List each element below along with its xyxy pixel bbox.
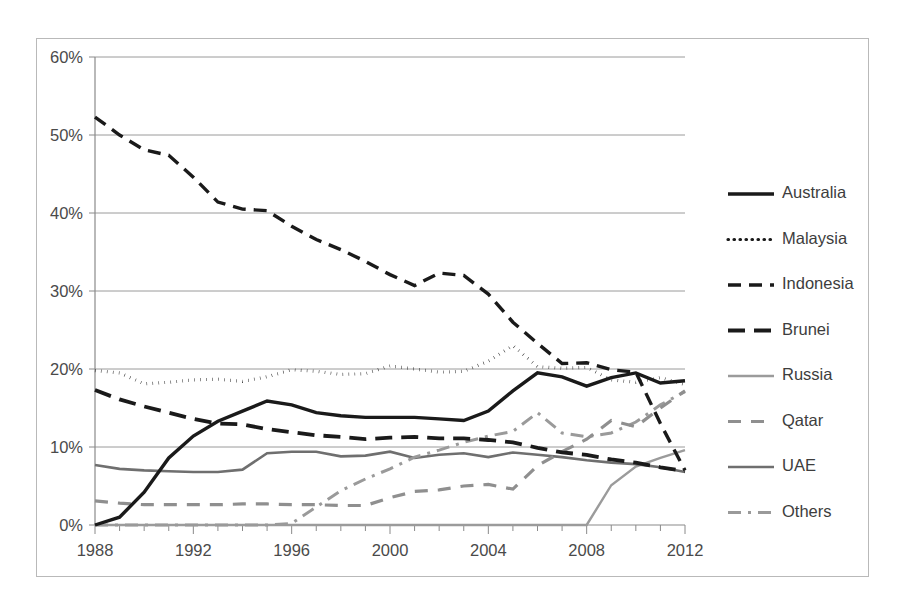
y-axis-group: [89, 57, 95, 525]
series-line-malaysia: [95, 346, 685, 385]
chart-plot: 0%10%20%30%40%50%60% 1988199219962000200…: [0, 0, 910, 606]
series-line-australia: [95, 373, 685, 525]
legend-label-others: Others: [782, 502, 832, 520]
y-tick-label: 20%: [50, 360, 83, 378]
series-line-qatar: [95, 391, 685, 506]
chart-container: 0%10%20%30%40%50%60% 1988199219962000200…: [0, 0, 910, 606]
y-tick-label: 50%: [50, 126, 83, 144]
x-tick-label: 1992: [175, 541, 212, 559]
y-tick-label: 0%: [59, 516, 83, 534]
legend-label-brunei: Brunei: [782, 320, 830, 338]
gridlines-group: [95, 57, 685, 447]
x-tick-label: 2008: [568, 541, 605, 559]
legend-label-indonesia: Indonesia: [782, 274, 854, 292]
series-group: [95, 117, 685, 525]
legend-label-russia: Russia: [782, 365, 833, 383]
legend-group: AustraliaMalaysiaIndonesiaBruneiRussiaQa…: [728, 183, 854, 520]
y-tick-label: 60%: [50, 48, 83, 66]
series-line-brunei: [95, 390, 685, 471]
x-tick-label: 1996: [273, 541, 310, 559]
legend-label-uae: UAE: [782, 456, 816, 474]
x-tick-label: 1988: [77, 541, 114, 559]
x-tick-label: 2000: [372, 541, 409, 559]
x-axis-group: [95, 525, 685, 534]
y-tick-label: 40%: [50, 204, 83, 222]
y-tick-labels-group: 0%10%20%30%40%50%60%: [50, 48, 83, 534]
y-tick-label: 10%: [50, 438, 83, 456]
x-tick-labels-group: 1988199219962000200420082012: [77, 541, 704, 559]
x-tick-label: 2004: [470, 541, 507, 559]
legend-label-qatar: Qatar: [782, 411, 824, 429]
y-tick-label: 30%: [50, 282, 83, 300]
legend-label-australia: Australia: [782, 183, 847, 201]
legend-label-malaysia: Malaysia: [782, 229, 848, 247]
x-tick-label: 2012: [667, 541, 704, 559]
